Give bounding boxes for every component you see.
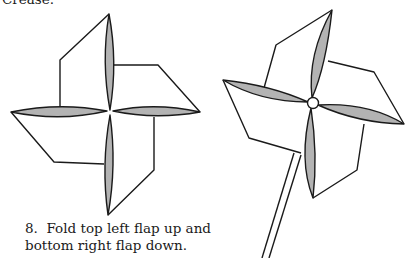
blade-bottom	[305, 108, 315, 198]
step-8-line-1: 8. Fold top left flap up and	[25, 220, 211, 237]
blade-bottom	[105, 115, 113, 215]
flap-top-left	[60, 14, 109, 108]
flap-bottom-right	[108, 117, 154, 215]
center-pin-icon	[308, 98, 319, 109]
pinwheel-finished-figure	[223, 10, 404, 258]
blade-left	[11, 107, 107, 117]
flap-top-right	[114, 65, 200, 112]
blade-right	[318, 105, 404, 124]
step-text-line-2: bottom right flap down.	[25, 237, 211, 254]
blade-right	[113, 107, 200, 116]
step-text-line-1: Fold top left flap up and	[46, 220, 211, 236]
step-8-instruction: 8. Fold top left flap up and bottom righ…	[25, 220, 211, 254]
flap-bottom-right	[313, 124, 364, 198]
stick-left-edge	[262, 153, 294, 258]
step-number: 8.	[25, 220, 38, 236]
stick-right-edge	[269, 155, 301, 258]
flap-bottom-left	[11, 112, 104, 164]
blade-top	[311, 10, 332, 98]
blade-top	[105, 14, 114, 110]
pinwheel-flat-figure	[11, 14, 200, 215]
